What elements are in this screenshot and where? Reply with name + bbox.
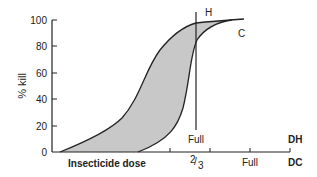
y-ticks [52, 20, 57, 126]
ytick-40: 40 [36, 94, 48, 105]
dh-full-label: Full [188, 134, 204, 145]
dc-two-thirds-den: 3 [198, 160, 204, 171]
label-c: C [238, 28, 245, 39]
ytick-100: 100 [30, 15, 47, 26]
dc-full-label: Full [242, 157, 258, 168]
dc-two-thirds-slash: / [194, 156, 197, 167]
y-axis-title: % kill [16, 73, 28, 99]
ytick-20: 20 [36, 121, 48, 132]
label-h: H [205, 7, 212, 18]
ytick-60: 60 [36, 68, 48, 79]
ytick-0: 0 [41, 147, 47, 158]
shaded-region [60, 20, 232, 152]
dc-label: DC [288, 157, 302, 168]
x-axis-title: Insecticide dose [68, 158, 146, 169]
dose-response-chart: 100 80 60 40 20 0 % kill H C Full DH Ins… [0, 0, 317, 177]
ytick-80: 80 [36, 41, 48, 52]
dh-label: DH [288, 134, 302, 145]
